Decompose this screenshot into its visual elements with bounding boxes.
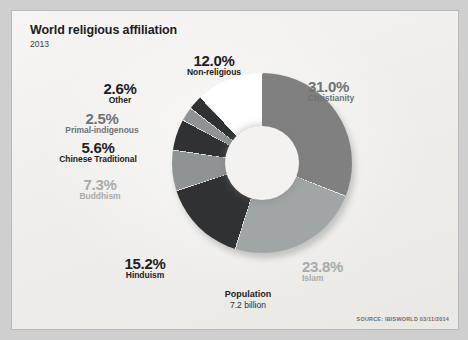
slice-label-hinduism: 15.2% Hinduism bbox=[90, 256, 200, 281]
population-caption: Population 7.2 billion bbox=[188, 289, 308, 311]
slice-pct-non-religious: 12.0% bbox=[152, 53, 276, 68]
slice-pct-chinese-traditional: 5.6% bbox=[28, 140, 168, 155]
page-title: World religious affiliation bbox=[30, 23, 177, 37]
slice-pct-hinduism: 15.2% bbox=[90, 256, 200, 271]
slice-pct-islam: 23.8% bbox=[302, 259, 422, 274]
slice-name-chinese-traditional: Chinese Traditional bbox=[28, 155, 168, 165]
population-caption-title: Population bbox=[188, 289, 308, 300]
slice-label-christianity: 31.0% Christianity bbox=[308, 79, 438, 104]
slice-name-non-religious: Non-religious bbox=[152, 68, 276, 78]
slice-pct-buddhism: 7.3% bbox=[44, 177, 156, 192]
slice-label-other: 2.6% Other bbox=[72, 81, 168, 106]
slice-label-primal-indigenous: 2.5% Primal-indigenous bbox=[36, 111, 168, 136]
source-note: SOURCE: IBISWORLD 03/11/2014 bbox=[357, 316, 449, 322]
slice-name-buddhism: Buddhism bbox=[44, 192, 156, 202]
slice-name-islam: Islam bbox=[302, 274, 422, 284]
population-caption-value: 7.2 billion bbox=[188, 300, 308, 311]
slice-label-chinese-traditional: 5.6% Chinese Traditional bbox=[28, 140, 168, 165]
donut-hole bbox=[225, 126, 299, 200]
slice-name-christianity: Christianity bbox=[308, 94, 438, 104]
slice-pct-primal-indigenous: 2.5% bbox=[36, 111, 168, 126]
slice-label-non-religious: 12.0% Non-religious bbox=[152, 53, 276, 78]
slice-name-other: Other bbox=[72, 96, 168, 106]
slice-name-hinduism: Hinduism bbox=[90, 271, 200, 281]
page-subtitle-year: 2013 bbox=[30, 39, 49, 49]
slice-pct-christianity: 31.0% bbox=[308, 79, 438, 94]
slice-name-primal-indigenous: Primal-indigenous bbox=[36, 126, 168, 136]
slice-label-buddhism: 7.3% Buddhism bbox=[44, 177, 156, 202]
slice-pct-other: 2.6% bbox=[72, 81, 168, 96]
infographic-card: World religious affiliation 2013 12.0% N… bbox=[11, 10, 459, 330]
slice-label-islam: 23.8% Islam bbox=[302, 259, 422, 284]
